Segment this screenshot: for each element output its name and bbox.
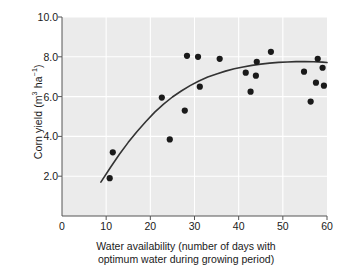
data-point xyxy=(243,70,249,76)
data-point xyxy=(313,80,319,86)
data-point xyxy=(184,53,190,59)
plot-area xyxy=(0,0,348,277)
data-point xyxy=(182,107,188,113)
data-point xyxy=(197,84,203,90)
data-point xyxy=(253,73,259,79)
data-point xyxy=(321,83,327,89)
data-point xyxy=(167,136,173,142)
data-point xyxy=(301,69,307,75)
data-point xyxy=(254,59,260,65)
chart-figure: Corn yield (m3 ha−1) 2.04.06.08.010.0 01… xyxy=(0,0,348,277)
data-point xyxy=(217,56,223,62)
data-point xyxy=(110,149,116,155)
data-point xyxy=(247,89,253,95)
data-point xyxy=(195,54,201,60)
data-point xyxy=(107,175,113,181)
data-point xyxy=(319,65,325,71)
data-point xyxy=(308,98,314,104)
data-point xyxy=(315,56,321,62)
data-point xyxy=(159,94,165,100)
data-point xyxy=(268,49,274,55)
